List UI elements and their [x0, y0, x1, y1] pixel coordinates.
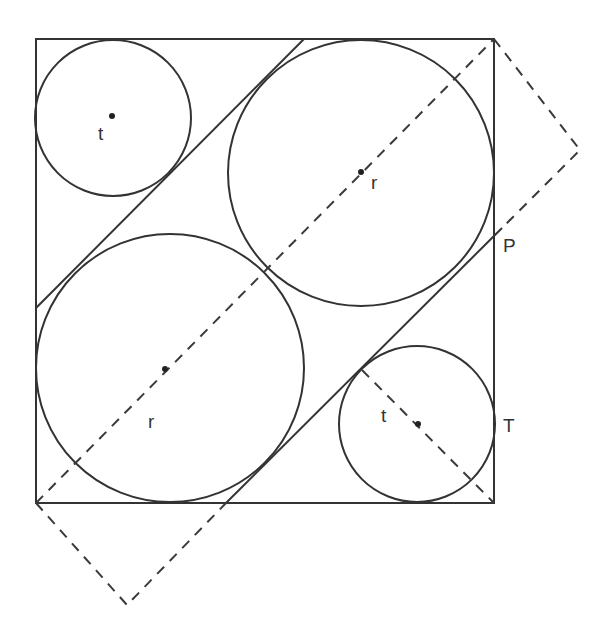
center-dot-bottom-right — [415, 421, 421, 427]
center-dot-bottom-left — [162, 366, 168, 372]
center-dot-top-right — [358, 169, 364, 175]
upper-tangent-line — [36, 39, 304, 308]
dashed-rectangle-bottom — [36, 503, 226, 605]
dashed-rectangle-right — [494, 39, 580, 228]
dashed-diagonal — [36, 39, 494, 503]
dashed-small-diagonal — [362, 370, 494, 503]
label-r-bottom: r — [148, 411, 155, 432]
label-r-top: r — [371, 172, 378, 193]
label-T: T — [503, 415, 515, 436]
geometry-diagram: t r r t P T — [0, 0, 604, 634]
label-P: P — [503, 235, 516, 256]
center-dot-top-left — [109, 113, 115, 119]
label-t-bottom: t — [381, 405, 387, 426]
label-t-top: t — [98, 123, 104, 144]
